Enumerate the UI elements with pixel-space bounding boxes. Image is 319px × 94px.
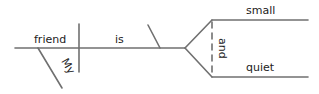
word-complement-top: small [246,4,275,17]
word-subject: friend [34,33,66,46]
modifier-line [38,48,62,88]
word-verb: is [115,33,124,46]
word-conjunction: and [216,38,229,59]
word-modifier: My [58,56,78,77]
word-complement-bottom: quiet [246,61,275,74]
sentence-diagram: friend is My small quiet and [0,0,319,94]
fork-upper [185,20,212,48]
fork-lower [185,48,212,77]
complement-slash [148,25,160,48]
